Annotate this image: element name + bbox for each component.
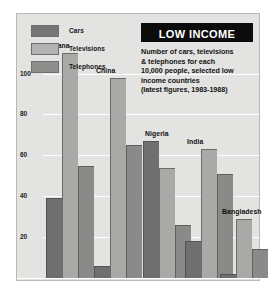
bar-india-telephones: [217, 174, 233, 278]
legend-label-cars: Cars: [69, 25, 84, 37]
description-line: income countries: [141, 76, 253, 86]
chart-panel: 20406080100GhanaChinaNigeriaIndiaBanglad…: [16, 13, 260, 281]
country-label-nigeria: Nigeria: [145, 130, 169, 137]
bar-nigeria-televisions: [159, 168, 175, 278]
bar-bangladesh-televisions: [236, 219, 252, 278]
description-line: Number of cars, televisions: [141, 47, 253, 57]
bar-bangladesh-cars: [220, 274, 236, 278]
legend-swatch-telephones: [31, 61, 59, 73]
axis-baseline: [17, 278, 261, 279]
legend-label-telephones: Telephones: [69, 61, 106, 73]
bar-nigeria-cars: [143, 141, 159, 278]
bar-ghana-telephones: [78, 166, 94, 278]
bar-china-telephones: [126, 145, 142, 278]
legend-swatch-cars: [31, 25, 59, 37]
bar-india-cars: [185, 241, 201, 278]
bar-china-cars: [94, 266, 110, 278]
y-axis-tick-label: 80: [20, 110, 41, 117]
y-axis-tick-label: 60: [20, 151, 41, 158]
bar-ghana-televisions: [62, 53, 78, 278]
description-line: & telephones for each: [141, 57, 253, 67]
description-line: 10,000 people, selected low: [141, 66, 253, 76]
page-title: LOW INCOME: [159, 28, 236, 40]
chart-figure: 20406080100GhanaChinaNigeriaIndiaBanglad…: [0, 0, 274, 292]
legend-swatch-televisions: [31, 43, 59, 55]
legend-item-cars: Cars: [31, 24, 151, 41]
y-axis-tick-label: 20: [20, 233, 41, 240]
description-line: (latest figures, 1983-1988): [141, 85, 253, 95]
bar-ghana-cars: [46, 198, 62, 278]
description-text: Number of cars, televisions & telephones…: [141, 47, 253, 95]
headline-block: LOW INCOME Number of cars, televisions &…: [141, 23, 253, 95]
title-box: LOW INCOME: [141, 23, 253, 42]
country-label-india: India: [187, 138, 203, 145]
legend-label-televisions: Televisions: [69, 43, 105, 55]
bar-india-televisions: [201, 149, 217, 278]
chart-legend: Cars Televisions Telephones: [31, 24, 151, 78]
y-axis-tick-label: 40: [20, 192, 41, 199]
bar-china-televisions: [110, 78, 126, 278]
legend-item-televisions: Televisions: [31, 42, 151, 59]
bar-bangladesh-telephones: [252, 249, 268, 278]
country-label-bangladesh: Bangladesh: [222, 208, 262, 215]
legend-item-telephones: Telephones: [31, 60, 151, 77]
